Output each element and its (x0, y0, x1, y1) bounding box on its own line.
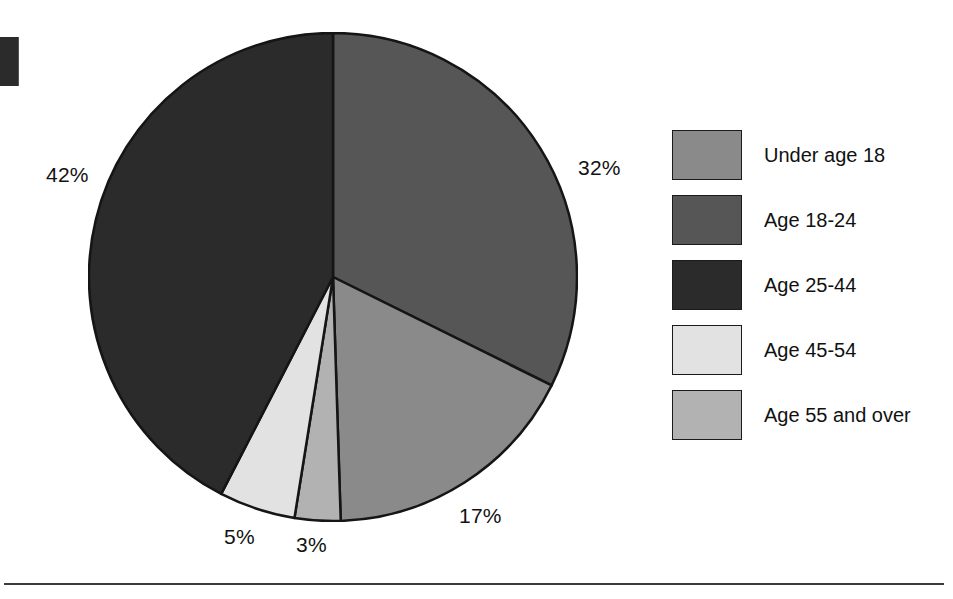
legend-label: Under age 18 (764, 145, 885, 165)
pie-label-32-percent: 32% (578, 157, 621, 178)
legend-item-age-55-and-over[interactable]: Age 55 and over (672, 390, 932, 440)
legend-item-age-18-24[interactable]: Age 18-24 (672, 195, 932, 245)
pie-chart-graphic (88, 32, 578, 522)
pie-label-17-percent: 17% (459, 505, 502, 526)
pie-chart-figure: 32% 17% 3% 5% 42% Under age 18Age 18-24A… (0, 0, 953, 599)
footer-divider-rule (4, 583, 944, 585)
pie-label-5-percent: 5% (224, 526, 255, 547)
chart-legend: Under age 18Age 18-24Age 25-44Age 45-54A… (672, 130, 932, 440)
legend-label: Age 55 and over (764, 405, 911, 425)
legend-swatch-age-45-54 (672, 325, 742, 375)
legend-item-age-25-44[interactable]: Age 25-44 (672, 260, 932, 310)
legend-label: Age 18-24 (764, 210, 856, 230)
pie-svg (88, 32, 578, 522)
legend-swatch-age-25-44 (672, 260, 742, 310)
pie-label-42-percent: 42% (46, 164, 89, 185)
legend-swatch-age-55-and-over (672, 390, 742, 440)
legend-item-age-45-54[interactable]: Age 45-54 (672, 325, 932, 375)
legend-swatch-age-18-24 (672, 195, 742, 245)
legend-item-under-age-18[interactable]: Under age 18 (672, 130, 932, 180)
legend-swatch-under-age-18 (672, 130, 742, 180)
pie-label-3-percent: 3% (296, 534, 327, 555)
legend-label: Age 45-54 (764, 340, 856, 360)
legend-label: Age 25-44 (764, 275, 856, 295)
left-edge-scan-artifact (0, 37, 18, 86)
